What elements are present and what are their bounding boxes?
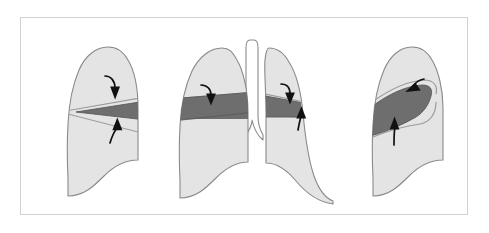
panel-frontal-hitbox[interactable] (170, 32, 342, 210)
panel-left-lateral-hitbox[interactable] (52, 40, 152, 205)
figure-root (0, 0, 489, 233)
panel-right-lateral-hitbox[interactable] (360, 40, 460, 205)
